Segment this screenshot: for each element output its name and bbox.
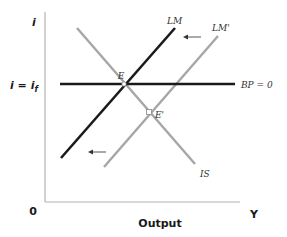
lm-prime-label: LM' xyxy=(211,23,230,33)
equilibrium-point-e xyxy=(122,82,126,86)
bp-label: BP = 0 xyxy=(240,80,273,90)
equilibrium-point-e-prime xyxy=(147,110,152,115)
shift-arrow-top-icon xyxy=(183,35,201,40)
origin-label: 0 xyxy=(29,205,37,218)
point-e-prime-label: E' xyxy=(154,110,164,120)
x-axis-title: Output xyxy=(138,217,181,230)
is-curve xyxy=(77,28,195,164)
lm-prime-curve xyxy=(104,36,218,167)
interest-level-subscript: f xyxy=(34,85,39,94)
lm-curve xyxy=(61,28,175,158)
shift-arrow-bottom-icon xyxy=(88,150,106,155)
lm-label: LM xyxy=(166,16,183,26)
x-axis-label: Y xyxy=(249,208,259,221)
is-label: IS xyxy=(199,169,210,179)
y-axis-label: i xyxy=(32,16,36,29)
interest-level-label: i = if xyxy=(10,79,39,94)
is-lm-bp-diagram: i i = if 0 Y Output LM LM' BP = 0 IS E E… xyxy=(0,0,287,237)
point-e-label: E xyxy=(117,71,125,81)
